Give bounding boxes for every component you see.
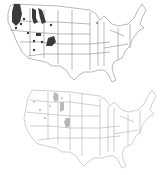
occurrence-dot (33, 40, 35, 42)
distribution-areas-light (33, 92, 70, 128)
range-area-utah (36, 33, 41, 36)
occurrence-dot (23, 18, 25, 20)
occurrence-dot (15, 27, 17, 29)
occurrence-dot (96, 22, 98, 24)
range-area-colorado (46, 36, 56, 46)
us-map-bottom-svg (0, 88, 164, 175)
us-outline (24, 90, 156, 168)
occurrence-dot (61, 97, 63, 99)
occurrence-dot (27, 32, 29, 34)
range-area-colorado (64, 118, 70, 128)
occurrence-dot (39, 109, 41, 111)
range-area-wyoming (60, 102, 64, 112)
occurrence-dot (33, 101, 35, 103)
range-area-montana (53, 92, 58, 102)
us-map-bottom (0, 88, 164, 175)
occurrence-dot (50, 24, 52, 26)
us-map-top (0, 0, 164, 88)
occurrence-dot (49, 105, 51, 107)
us-outline (8, 4, 146, 82)
occurrence-dot (44, 117, 46, 119)
occurrence-dot (20, 23, 22, 25)
occurrence-dot (41, 41, 43, 43)
range-area-montana (38, 8, 46, 24)
us-map-top-svg (0, 0, 164, 88)
range-area-washington-oregon (12, 4, 22, 26)
occurrence-dot (33, 49, 35, 51)
